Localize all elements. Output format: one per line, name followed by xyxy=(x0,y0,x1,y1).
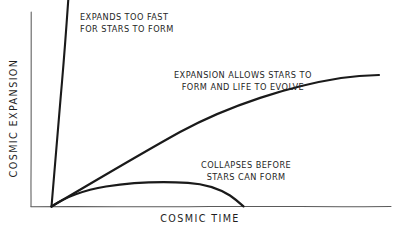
curve-collapses-before xyxy=(52,182,244,206)
annotation-collapses-before: COLLAPSES BEFORE STARS CAN FORM xyxy=(201,160,291,183)
curve-expands-too-fast xyxy=(52,0,69,207)
plot-area xyxy=(0,0,406,235)
y-axis-label: COSMIC EXPANSION xyxy=(8,59,19,178)
annotation-expands-too-fast: EXPANDS TOO FAST FOR STARS TO FORM xyxy=(80,12,174,35)
cosmic-expansion-figure: EXPANDS TOO FAST FOR STARS TO FORM EXPAN… xyxy=(0,0,406,235)
annotation-expansion-allows: EXPANSION ALLOWS STARS TO FORM AND LIFE … xyxy=(174,70,312,93)
x-axis-label: COSMIC TIME xyxy=(160,213,240,224)
